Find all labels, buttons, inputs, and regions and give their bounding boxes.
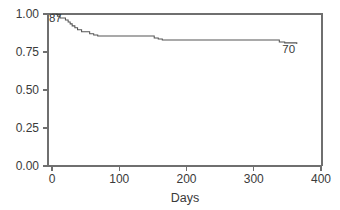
- x-tick-label-300: 300: [244, 172, 264, 186]
- x-tick-label-0: 0: [49, 172, 56, 186]
- x-tick-label-100: 100: [109, 172, 129, 186]
- y-axis-ticks: [43, 14, 48, 166]
- curve-annotations: 8770: [49, 12, 295, 54]
- x-tick-label-200: 200: [176, 172, 196, 186]
- plot-frame: [48, 14, 322, 166]
- plot-frame-border: [48, 14, 322, 166]
- y-tick-label-1.00: 1.00: [16, 7, 40, 21]
- y-tick-label-0.50: 0.50: [16, 83, 40, 97]
- annotation-at-risk-end: 70: [282, 43, 295, 55]
- survival-curve-group: [52, 14, 297, 44]
- survival-chart-figure: 0100200300400 0.000.250.500.751.00 8770 …: [0, 0, 340, 210]
- y-tick-label-0.25: 0.25: [16, 121, 40, 135]
- y-tick-label-0.00: 0.00: [16, 159, 40, 173]
- annotation-at-risk-start: 87: [49, 12, 62, 24]
- kaplan-meier-plot: 0100200300400 0.000.250.500.751.00 8770 …: [0, 0, 340, 210]
- x-tick-label-400: 400: [311, 172, 331, 186]
- x-axis-title: Days: [171, 191, 199, 205]
- y-axis-tick-labels: 0.000.250.500.751.00: [16, 7, 40, 173]
- x-axis-tick-labels: 0100200300400: [49, 172, 332, 186]
- y-tick-label-0.75: 0.75: [16, 45, 40, 59]
- survival-curve: [52, 14, 297, 44]
- x-axis-ticks: [52, 166, 321, 171]
